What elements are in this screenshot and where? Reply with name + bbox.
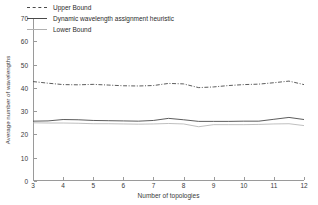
x-tick-label: 3	[31, 182, 35, 189]
plot-area: 010203040506070 3456789101112 Average nu…	[33, 18, 304, 181]
y-tick-label: 10	[21, 154, 28, 161]
y-tick-label: 60	[21, 38, 28, 45]
x-tick-label: 10	[240, 182, 247, 189]
x-tick-label: 7	[152, 182, 156, 189]
x-tick-label: 11	[271, 182, 278, 189]
y-tick-label: 20	[21, 131, 28, 138]
legend-label: Upper Bound	[53, 2, 91, 13]
series-line	[33, 123, 304, 127]
x-tick-label: 5	[91, 182, 95, 189]
legend-line-sample	[27, 7, 47, 8]
x-tick-label: 4	[61, 182, 65, 189]
x-tick-label: 9	[212, 182, 216, 189]
x-tick-label: 6	[122, 182, 126, 189]
x-axis-label: Number of topologies	[138, 192, 200, 199]
legend-label: Dynamic wavelength assignment heuristic	[53, 13, 174, 24]
series-line	[33, 81, 304, 88]
y-tick-label: 30	[21, 108, 28, 115]
x-tick-label: 8	[182, 182, 186, 189]
data-series-layer	[33, 18, 304, 181]
x-tick-label: 12	[300, 182, 307, 189]
legend-line-sample	[27, 18, 47, 19]
y-tick-label: 0	[24, 178, 28, 185]
legend-label: Lower Bound	[53, 24, 91, 35]
series-line	[33, 117, 304, 121]
x-tick-mark	[304, 177, 305, 180]
y-tick-label: 40	[21, 84, 28, 91]
y-tick-label: 50	[21, 61, 28, 68]
chart-figure: 010203040506070 3456789101112 Average nu…	[0, 0, 318, 205]
y-axis-label: Average number of wavelengths	[4, 55, 11, 144]
legend-line-sample	[27, 29, 47, 30]
